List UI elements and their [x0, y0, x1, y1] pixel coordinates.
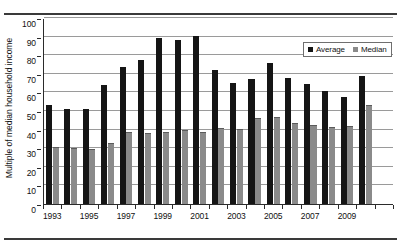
figure: Multiple of median household income 0102…	[0, 0, 401, 252]
top-divider-rule	[4, 13, 397, 15]
y-axis-tick-mark	[37, 19, 41, 20]
bar-group	[191, 19, 209, 204]
x-axis-tick-mark	[246, 205, 247, 209]
legend-swatch-average-icon	[308, 47, 313, 52]
bar-average	[101, 85, 107, 204]
bar-average	[285, 78, 291, 204]
x-axis-tick-label: 2005	[264, 211, 283, 221]
bar-average	[359, 76, 365, 204]
bar-average	[46, 105, 52, 204]
x-axis-tick-mark	[393, 205, 394, 209]
y-axis-tick-mark	[37, 168, 41, 169]
bar-average	[322, 91, 328, 204]
bar-median	[218, 128, 224, 204]
bar-average	[341, 97, 347, 204]
bar-average	[193, 36, 199, 204]
legend-label-average: Average	[316, 45, 345, 54]
bar-group	[81, 19, 99, 204]
x-axis-tick-mark	[338, 205, 339, 209]
x-axis-tick-mark	[301, 205, 302, 209]
bar-median	[329, 127, 335, 204]
y-axis-ticks: 0102030405060708090100	[0, 19, 41, 205]
bar-group	[210, 19, 228, 204]
bar-median	[163, 132, 169, 204]
x-axis-tick-label: 2007	[301, 211, 320, 221]
bar-average	[83, 109, 89, 204]
x-axis-tick-mark	[356, 205, 357, 209]
gridline	[44, 17, 393, 18]
bar-group	[99, 19, 117, 204]
x-axis-ticks: 199319951997199920012003200520072009	[43, 205, 393, 227]
bar-median	[108, 143, 114, 204]
bar-average	[304, 84, 310, 204]
x-axis-tick-mark	[117, 205, 118, 209]
y-axis-tick-mark	[37, 205, 41, 206]
x-axis-tick-label: 1995	[80, 211, 99, 221]
y-axis-tick-mark	[37, 186, 41, 187]
x-axis-tick-label: 2003	[227, 211, 246, 221]
x-axis-tick-mark	[135, 205, 136, 209]
legend-swatch-median-icon	[353, 47, 358, 52]
x-axis-tick-mark	[282, 205, 283, 209]
x-axis-tick-mark	[209, 205, 210, 209]
x-axis-tick-label: 1997	[117, 211, 136, 221]
bar-median	[292, 123, 298, 204]
bar-group	[283, 19, 301, 204]
bar-group	[247, 19, 265, 204]
bar-average	[248, 79, 254, 204]
bar-average	[138, 60, 144, 204]
y-axis-tick-mark	[37, 93, 41, 94]
bar-group	[62, 19, 80, 204]
x-axis-tick-mark	[154, 205, 155, 209]
x-axis-tick-mark	[61, 205, 62, 209]
bar-group	[173, 19, 191, 204]
legend-item-median: Median	[353, 45, 387, 54]
bar-median	[200, 132, 206, 204]
bar-average	[175, 40, 181, 204]
legend-label-median: Median	[361, 45, 387, 54]
x-axis-tick-mark	[190, 205, 191, 209]
bar-median	[71, 148, 77, 204]
bar-group	[155, 19, 173, 204]
x-axis-tick-mark	[172, 205, 173, 209]
bar-median	[182, 130, 188, 204]
y-axis-tick-mark	[37, 149, 41, 150]
x-axis-tick-label: 2009	[338, 211, 357, 221]
bar-median	[145, 133, 151, 204]
bar-median	[310, 125, 316, 204]
y-axis-tick-mark	[37, 38, 41, 39]
bar-median	[89, 149, 95, 204]
bar-median	[255, 118, 261, 204]
y-axis-tick-mark	[37, 131, 41, 132]
bar-group	[265, 19, 283, 204]
x-axis-tick-label: 1999	[153, 211, 172, 221]
bar-average	[230, 83, 236, 204]
bar-median	[53, 147, 59, 204]
bar-average	[156, 38, 162, 204]
bar-group	[228, 19, 246, 204]
x-axis-tick-mark	[227, 205, 228, 209]
bar-group	[136, 19, 154, 204]
bar-median	[366, 105, 372, 205]
x-axis-tick-mark	[80, 205, 81, 209]
x-axis-tick-mark	[375, 205, 376, 209]
bottom-divider-rule	[4, 238, 397, 240]
bar-median	[237, 129, 243, 204]
bar-average	[64, 109, 70, 204]
bar-median	[126, 132, 132, 204]
y-axis-tick-mark	[37, 75, 41, 76]
x-axis-tick-mark	[319, 205, 320, 209]
bar-average	[267, 63, 273, 204]
bar-group	[118, 19, 136, 204]
x-axis-tick-mark	[264, 205, 265, 209]
y-axis-tick-mark	[37, 112, 41, 113]
bar-median	[274, 117, 280, 204]
y-axis-tick-mark	[37, 56, 41, 57]
bar-average	[120, 67, 126, 204]
x-axis-tick-label: 1993	[43, 211, 62, 221]
x-axis-tick-label: 2001	[190, 211, 209, 221]
chart-legend: Average Median	[303, 42, 392, 57]
bar-average	[212, 70, 218, 204]
bar-median	[347, 126, 353, 204]
x-axis-tick-mark	[98, 205, 99, 209]
